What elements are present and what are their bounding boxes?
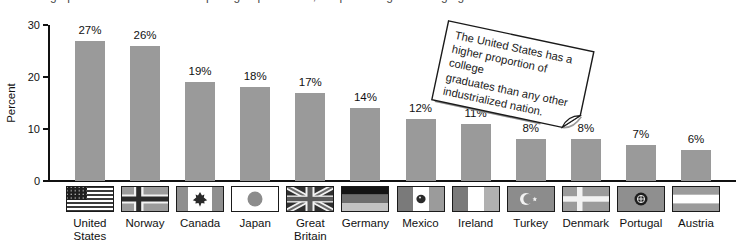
great-britain-flag-icon [286, 186, 334, 212]
y-tick-mark [43, 76, 48, 77]
canada-flag-icon [176, 186, 224, 212]
y-tick-mark [43, 180, 48, 181]
bar-value-label: 14% [338, 91, 393, 103]
country-label: Canada [173, 217, 228, 230]
bar-value-label: 7% [613, 128, 668, 140]
bar-value-label: 19% [173, 65, 228, 77]
bar [75, 41, 105, 181]
bar-value-label: 27% [62, 24, 117, 36]
chart-column: 7% Portugal [613, 0, 668, 247]
bar-value-label: 17% [283, 76, 338, 88]
chart-column: 26% Norway [118, 0, 173, 247]
chart-column: 14% Germany [338, 0, 393, 247]
mexico-flag-icon [397, 186, 445, 212]
y-tick-label: 0 [12, 175, 40, 187]
norway-flag-icon [121, 186, 169, 212]
y-tick-label: 20 [12, 71, 40, 83]
y-tick-label: 10 [12, 123, 40, 135]
chart-column: 27% UnitedStates [62, 0, 117, 247]
country-label: UnitedStates [62, 217, 117, 242]
austria-flag-icon [672, 186, 720, 212]
portugal-flag-icon [617, 186, 665, 212]
bar [571, 139, 601, 181]
bar [130, 46, 160, 181]
chart-column: 12% Mexico [393, 0, 448, 247]
bar [681, 150, 711, 181]
country-label: Germany [338, 217, 393, 230]
bar [350, 108, 380, 181]
country-label: Turkey [503, 217, 558, 230]
ireland-flag-icon [452, 186, 500, 212]
japan-flag-icon [231, 186, 279, 212]
bar-chart-figure: Bar graphs are often used to compare gro… [0, 0, 737, 247]
bar [516, 139, 546, 181]
chart-column: 19% Canada [173, 0, 228, 247]
country-label: Ireland [448, 217, 503, 230]
bar-value-label: 12% [393, 102, 448, 114]
turkey-flag-icon [507, 186, 555, 212]
country-label: Mexico [393, 217, 448, 230]
denmark-flag-icon [562, 186, 610, 212]
bar [461, 124, 491, 181]
country-label: GreatBritain [283, 217, 338, 242]
bar [240, 87, 270, 181]
y-tick-mark [43, 24, 48, 25]
germany-flag-icon [341, 186, 389, 212]
chart-column: 6% Austria [669, 0, 724, 247]
country-label: Japan [228, 217, 283, 230]
bar-value-label: 26% [118, 29, 173, 41]
united-states-flag-icon [66, 186, 114, 212]
bar [295, 93, 325, 181]
country-label: Portugal [613, 217, 668, 230]
bar [626, 145, 656, 181]
country-label: Austria [669, 217, 724, 230]
bar [185, 82, 215, 181]
chart-column: 18% Japan [228, 0, 283, 247]
country-label: Norway [118, 217, 173, 230]
y-tick-mark [43, 128, 48, 129]
bar [406, 119, 436, 181]
bar-value-label: 6% [669, 133, 724, 145]
y-tick-label: 30 [12, 19, 40, 31]
bar-value-label: 18% [228, 70, 283, 82]
country-label: Denmark [558, 217, 613, 230]
y-axis-line [48, 25, 50, 181]
chart-column: 17% GreatBritain [283, 0, 338, 247]
